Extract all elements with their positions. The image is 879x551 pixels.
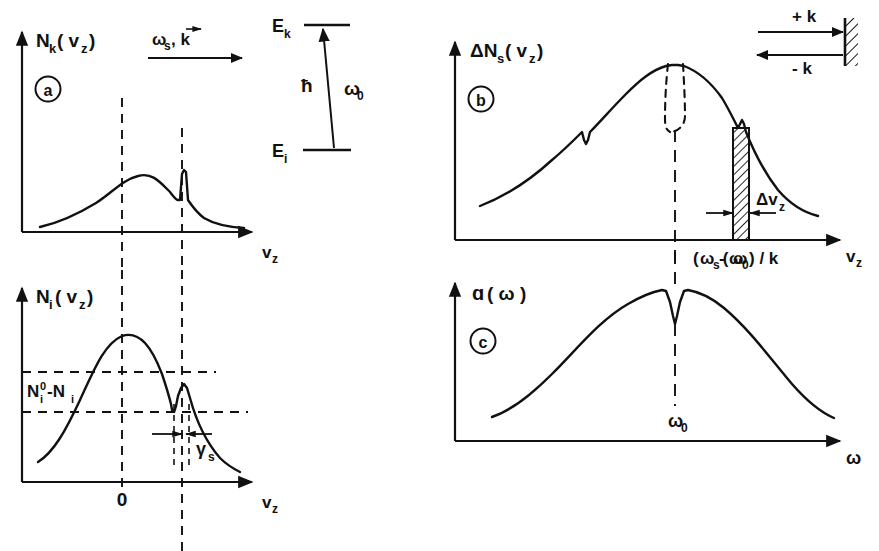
panel-a2-y-label-close: ) xyxy=(87,286,93,307)
panel-a-y-label-arg: ( v xyxy=(57,30,80,51)
panel-a-bottom: N 0 i -N i γ s N i ( v z ) 0 v z xyxy=(22,270,278,551)
panel-b-xtick-group: ( ω s - ω 0 ) / k xyxy=(693,249,779,272)
panel-a2-y-label-arg: ( v xyxy=(55,286,78,307)
level-ei-sub: i xyxy=(284,152,287,166)
population-diff-sup: 0 xyxy=(40,380,46,392)
panel-a-x-label: v xyxy=(262,243,272,262)
panel-a-y-label: N xyxy=(36,30,50,51)
level-ek-sub: k xyxy=(284,27,291,41)
panel-a2-x-label-sub: z xyxy=(272,502,278,516)
panel-b-tag: b xyxy=(476,92,486,109)
figure-svg: N k ( v z ) a v z ω s , k E k E i ħ ω 0 xyxy=(0,0,879,551)
panel-c: ɑ ( ω ) c ω 0 ω xyxy=(455,252,861,468)
panel-b-y-label-arg-sub: z xyxy=(529,51,536,66)
panel-b-dip-dashed-right xyxy=(672,64,685,132)
level-ek-label: E xyxy=(272,16,284,36)
panel-b-y-label-close: ) xyxy=(537,40,543,61)
panel-b-x-label: v xyxy=(846,247,856,266)
mirror-annotation: + k - k xyxy=(757,7,858,78)
panel-c-curve xyxy=(492,290,834,418)
energy-level-diagram: E k E i ħ ω 0 xyxy=(272,16,364,166)
beam-k-label: , k xyxy=(171,30,190,49)
figure-canvas: N k ( v z ) a v z ω s , k E k E i ħ ω 0 xyxy=(0,0,879,551)
panel-c-y-label: ɑ xyxy=(472,282,484,304)
panel-b-y-label-arg: ( v xyxy=(505,40,528,61)
panel-b-x-label-sub: z xyxy=(856,256,862,270)
band-label-sub: z xyxy=(779,200,785,214)
panel-c-y-label-arg: ( ω ) xyxy=(487,283,526,304)
population-diff-N: N xyxy=(27,382,39,401)
panel-a2-xtick-zero: 0 xyxy=(117,489,128,510)
xt-w0-sub: 0 xyxy=(742,258,749,272)
panel-c-tag: c xyxy=(479,334,488,351)
panel-a-y-label-sub: k xyxy=(49,41,57,56)
panel-b-y-label: ΔN xyxy=(470,40,497,61)
beam-annotation: ω s , k xyxy=(148,29,242,58)
gamma-label-sub: s xyxy=(208,450,215,464)
population-diff-sub2: i xyxy=(71,393,74,405)
gamma-label: γ xyxy=(196,439,206,459)
band-label: Δv xyxy=(756,190,778,209)
panel-a2-x-label: v xyxy=(262,493,272,512)
xt-minus: - xyxy=(719,249,725,268)
panel-a-y-label-close: ) xyxy=(89,30,95,51)
panel-a-tag: a xyxy=(44,82,53,99)
panel-b-hatched-band xyxy=(733,128,749,240)
transition-arrow-icon xyxy=(323,29,334,148)
panel-a2-y-label: N xyxy=(36,286,50,307)
panel-b-y-label-sub: s xyxy=(497,51,504,66)
minus-k-label: - k xyxy=(792,59,812,78)
mirror-hatching-icon xyxy=(845,18,858,66)
hbar-symbol: ħ xyxy=(301,75,313,96)
plus-k-label: + k xyxy=(792,7,817,26)
panel-a-y-label-arg-sub: z xyxy=(81,41,88,56)
panel-a-top: N k ( v z ) a v z xyxy=(22,30,278,268)
beam-omega-sub: s xyxy=(164,39,171,53)
panel-a-x-label-sub: z xyxy=(272,252,278,266)
level-ei-label: E xyxy=(272,141,284,161)
xt-close: ) / k xyxy=(749,249,779,268)
panel-c-x-label: ω xyxy=(846,448,861,468)
panel-a2-y-label-arg-sub: z xyxy=(79,297,86,312)
panel-b-dip-dashed-left xyxy=(665,64,670,132)
population-diff-sub: i xyxy=(40,393,43,405)
panel-a-curve xyxy=(40,170,244,228)
omega-zero-sub: 0 xyxy=(357,89,364,103)
population-diff-minus: -N xyxy=(47,382,65,401)
panel-c-xtick-sub: 0 xyxy=(681,421,688,435)
xt-paren: ( xyxy=(693,249,699,268)
panel-a2-y-label-sub: i xyxy=(49,297,53,312)
